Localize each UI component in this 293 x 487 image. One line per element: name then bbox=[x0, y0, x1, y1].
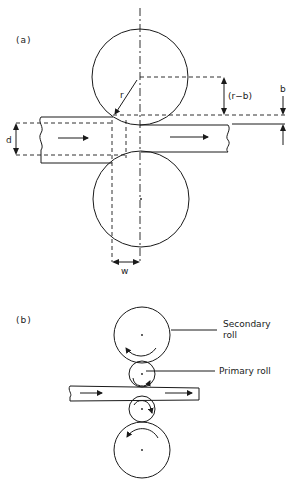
d-label: d bbox=[6, 135, 12, 145]
secondary-roll-label-2: roll bbox=[223, 330, 237, 340]
b-label: b bbox=[280, 84, 286, 94]
w-label: w bbox=[121, 266, 128, 276]
r-minus-b-label: (r−b) bbox=[228, 91, 252, 101]
lower-primary-rotation-arrow bbox=[134, 401, 152, 413]
panel-b: (b) Secondary roll Primary roll bbox=[16, 307, 271, 478]
strip-right-break bbox=[227, 125, 229, 152]
primary-roll-label: Primary roll bbox=[219, 366, 271, 376]
panel-a: (a) r (r−b) bbox=[6, 8, 286, 276]
upper-secondary-rotation-arrow bbox=[126, 348, 156, 356]
radius-arrow bbox=[115, 80, 137, 114]
panel-a-label: (a) bbox=[16, 35, 32, 45]
lower-roll-center bbox=[140, 198, 142, 200]
secondary-roll-label-1: Secondary bbox=[223, 319, 271, 329]
lower-secondary-rotation-arrow bbox=[127, 429, 158, 438]
rolling-mill-diagram: (a) r (r−b) bbox=[0, 0, 293, 487]
panel-b-label: (b) bbox=[16, 315, 32, 325]
radius-label: r bbox=[120, 90, 124, 100]
